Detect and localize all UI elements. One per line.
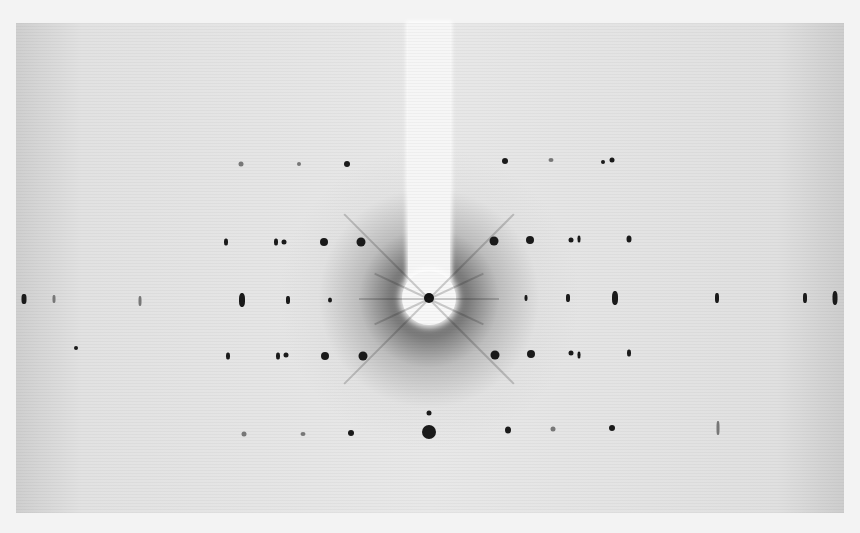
diffraction-spot [502,158,508,164]
diffraction-spot [609,425,615,431]
beam-stop [408,23,450,296]
diffraction-spot [803,293,807,303]
diffraction-spot [348,430,354,436]
diffraction-spot [627,236,632,243]
diffraction-spot [74,346,78,350]
diffraction-spot [525,295,528,301]
diffraction-spot [715,293,719,303]
diffraction-spot [239,293,245,307]
diffraction-spot [224,239,228,246]
diffraction-spot [242,432,247,437]
diffraction-spot [276,353,280,360]
diffraction-spot [286,296,290,304]
diffraction-spot [344,161,350,167]
diffraction-spot [601,160,605,164]
diffraction-spot [578,236,581,243]
diffraction-spot [274,239,278,246]
streak-ray [359,298,429,300]
diffraction-spot [717,421,720,435]
diffraction-spot [551,427,556,432]
diffraction-spot [526,236,534,244]
diffraction-spot [357,238,366,247]
diffraction-spot [566,294,570,302]
diffraction-spot [328,298,332,303]
diffraction-spot [284,353,289,358]
diffraction-spot [427,411,432,416]
diffraction-spot [527,350,535,358]
diffraction-spot [833,291,838,305]
diffraction-spot [139,296,142,306]
diffraction-spot [578,352,581,359]
streak-ray [429,298,499,300]
diffraction-spot [422,425,436,439]
diffraction-spot [610,158,615,163]
diffraction-spot [321,352,329,360]
diffraction-spot [239,162,244,167]
diffraction-spot [505,427,511,434]
diffraction-spot [490,237,499,246]
diffraction-spot [320,238,328,246]
diffraction-spot [22,294,27,304]
diffraction-spot [282,240,287,245]
diffraction-spot [226,353,230,360]
diffraction-spot [612,291,618,305]
diffraction-spot [301,432,306,436]
diffraction-spot [491,351,500,360]
diffraction-spot [297,162,301,166]
diffraction-spot [549,158,554,162]
diffraction-spot [569,351,574,356]
diffraction-film [16,23,844,513]
diffraction-spot [53,295,56,303]
diffraction-spot [627,350,631,357]
diffraction-spot [569,238,574,243]
diffraction-spot [359,352,368,361]
